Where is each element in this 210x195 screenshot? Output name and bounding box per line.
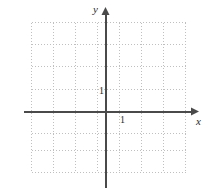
y-axis-label: y [93, 4, 98, 15]
graph-canvas [0, 0, 210, 195]
coordinate-plane-figure: y x 1 1 [0, 0, 210, 195]
x-axis-tick-label-one: 1 [120, 115, 125, 125]
y-axis-tick-label-one: 1 [99, 86, 104, 96]
x-axis-label: x [196, 116, 201, 127]
grid-horizontal-lines [32, 23, 186, 173]
grid-vertical-lines [32, 23, 186, 173]
x-axis [24, 108, 199, 116]
y-axis [102, 7, 110, 188]
y-axis-arrowhead-icon [102, 7, 110, 15]
